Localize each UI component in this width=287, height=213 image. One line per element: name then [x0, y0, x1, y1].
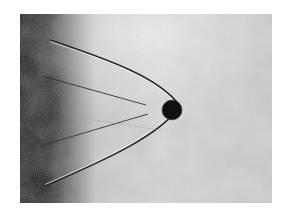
photo-frame	[20, 14, 272, 203]
shadowgraph-photo	[0, 0, 287, 213]
